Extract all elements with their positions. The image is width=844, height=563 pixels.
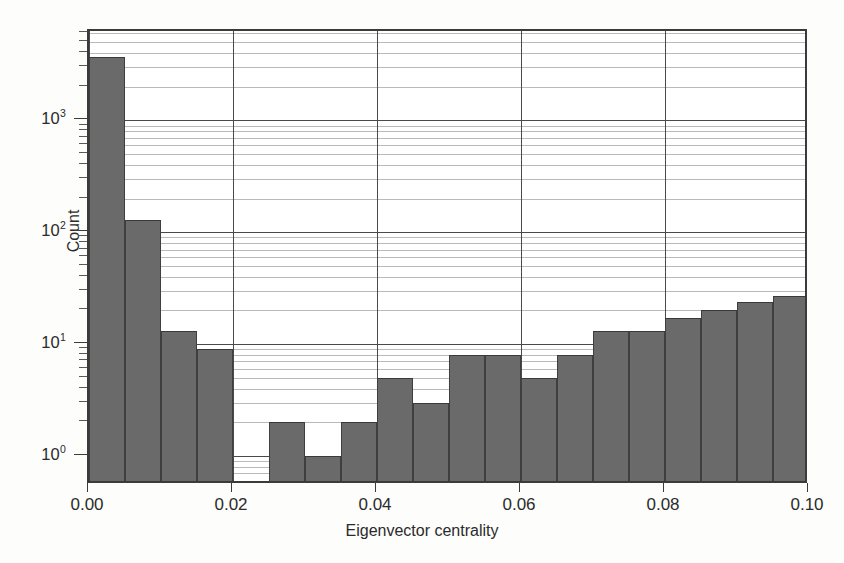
gridline-minor [89,257,805,258]
figure-histogram: Count 100101102103 0.000.020.040.060.080… [0,0,844,563]
histogram-bar [125,220,161,484]
y-tick-major [74,118,87,119]
histogram-bar [773,296,807,483]
y-tick-minor [79,129,87,130]
y-tick-minor [79,152,87,153]
y-tick-minor [79,308,87,309]
y-tick-minor [79,289,87,290]
y-tick-minor [79,387,87,388]
y-tick-minor [79,359,87,360]
y-tick-label-exponent: 1 [60,331,66,343]
gridline-minor [89,277,805,278]
y-tick-minor [79,275,87,276]
y-tick-minor [79,367,87,368]
y-tick-label-exponent: 2 [60,219,66,231]
histogram-bar [701,310,737,483]
histogram-bar [593,331,629,483]
y-tick-label: 102 [18,219,66,240]
y-tick-label: 103 [18,107,66,128]
gridline-minor [89,87,805,88]
y-tick-minor [79,136,87,137]
x-tick [807,483,808,492]
y-tick-label-base: 10 [41,109,60,127]
x-tick-label: 0.08 [623,495,703,515]
plot-area [87,29,807,483]
y-tick-label-exponent: 0 [60,443,66,455]
gridline-minor [89,237,805,238]
y-tick-minor [79,65,87,66]
gridline-minor [89,266,805,267]
gridline-minor [89,165,805,166]
y-tick-minor [79,51,87,52]
histogram-bar [449,355,485,483]
x-tick-label: 0.00 [47,495,127,515]
x-tick-label: 0.04 [335,495,415,515]
x-tick [375,483,376,492]
histogram-bar [89,57,125,483]
x-tick [87,483,88,492]
gridline-minor [89,138,805,139]
y-tick-minor [79,353,87,354]
y-tick-minor [79,124,87,125]
y-tick-minor [79,163,87,164]
x-tick-label: 0.06 [479,495,559,515]
y-tick-minor [79,31,87,32]
y-tick-minor [79,376,87,377]
gridline-minor [89,250,805,251]
gridline-minor [89,131,805,132]
gridline-major [89,232,805,233]
gridline-minor [89,145,805,146]
histogram-bar [413,403,449,483]
x-tick-label: 0.02 [191,495,271,515]
y-tick-label-base: 10 [41,221,60,239]
y-tick-major [74,454,87,455]
gridline-minor [89,243,805,244]
histogram-bar [665,318,701,483]
y-tick-label-base: 10 [41,444,60,462]
y-tick-minor [79,420,87,421]
histogram-bar [161,331,197,483]
y-tick-minor [79,177,87,178]
y-tick-minor [79,248,87,249]
y-tick-minor [79,85,87,86]
gridline-minor [89,42,805,43]
x-tick [519,483,520,492]
gridline-minor [89,53,805,54]
y-tick-label-base: 10 [41,333,60,351]
histogram-bar [269,422,305,483]
y-tick-minor [79,264,87,265]
y-tick-label-exponent: 3 [60,107,66,119]
y-tick-major [74,230,87,231]
gridline-minor [89,67,805,68]
gridline-minor [89,310,805,311]
y-tick-minor [79,401,87,402]
x-tick-label: 0.10 [767,495,844,515]
histogram-bar [197,349,233,483]
histogram-bar [521,378,557,483]
y-tick-label: 100 [18,443,66,464]
y-tick-label: 101 [18,331,66,352]
histogram-bar [485,355,521,483]
gridline-minor [89,291,805,292]
gridline-minor [89,179,805,180]
histogram-bar [629,331,665,483]
y-tick-major [74,342,87,343]
gridline-vertical [233,31,234,481]
x-tick [663,483,664,492]
y-tick-minor [79,347,87,348]
gridline-minor [89,154,805,155]
gridline-minor [89,33,805,34]
y-tick-minor [79,40,87,41]
gridline-major [89,120,805,121]
y-tick-minor [79,241,87,242]
histogram-bar [377,378,413,483]
x-axis-title: Eigenvector centrality [0,522,844,540]
y-tick-minor [79,143,87,144]
histogram-bar [737,302,773,483]
histogram-bar [557,355,593,483]
histogram-bar [305,456,341,483]
gridline-minor [89,199,805,200]
gridline-minor [89,126,805,127]
y-tick-minor [79,197,87,198]
y-tick-minor [79,235,87,236]
